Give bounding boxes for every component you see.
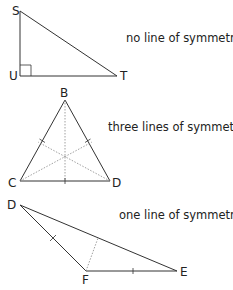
triangle-sut-outline	[20, 11, 117, 76]
right-angle-marker	[20, 65, 31, 76]
vertex-label-s: S	[12, 5, 20, 17]
vertex-label-t: T	[120, 70, 127, 82]
right-triangle-sut	[20, 11, 117, 76]
vertex-label-u: U	[9, 70, 18, 82]
caption-three-symmetry: three lines of symmetry	[108, 121, 233, 133]
caption-one-symmetry: one line of symmetry	[119, 209, 233, 221]
symmetry-lines-bcd	[20, 100, 110, 181]
tick-marks-dfe	[50, 235, 133, 274]
vertex-label-c: C	[8, 177, 16, 189]
vertex-label-d: D	[112, 177, 121, 189]
vertex-label-d2: D	[7, 199, 16, 211]
equilateral-triangle-bcd	[20, 100, 110, 184]
symmetry-line-f	[86, 238, 98, 271]
caption-no-symmetry: no line of symmetry	[126, 32, 233, 44]
vertex-label-e: E	[180, 266, 188, 278]
vertex-label-f: F	[82, 274, 89, 286]
vertex-label-b: B	[60, 87, 68, 99]
